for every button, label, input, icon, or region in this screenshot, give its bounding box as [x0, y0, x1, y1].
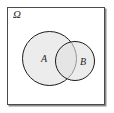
- venn-diagram-figure: Ω A B: [0, 0, 114, 113]
- set-circle-b: [55, 41, 95, 81]
- set-label-b: B: [80, 57, 86, 67]
- omega-symbol-label: Ω: [13, 9, 21, 20]
- set-label-a: A: [41, 54, 47, 64]
